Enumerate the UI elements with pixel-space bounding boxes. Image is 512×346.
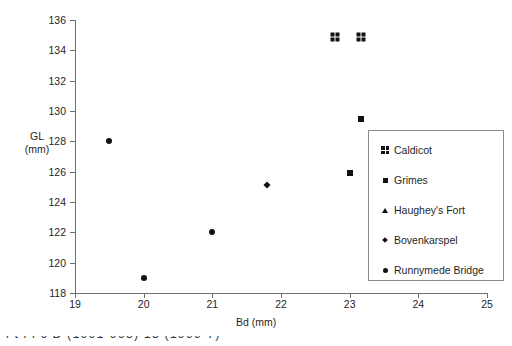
y-tick: [70, 20, 75, 21]
legend-item-runnymede-bridge[interactable]: Runnymede Bridge: [379, 264, 484, 276]
y-tick: [70, 50, 75, 51]
grid4-marker-icon: [379, 146, 391, 154]
x-tick-label: 23: [344, 298, 356, 310]
legend-item-bovenkarspel[interactable]: Bovenkarspel: [379, 234, 458, 246]
data-point: [141, 275, 147, 281]
y-tick-label-text: 130: [48, 106, 66, 117]
y-axis-title-line1: GL: [8, 130, 66, 143]
legend-item-label: Grimes: [394, 174, 428, 186]
x-tick-label: 25: [481, 298, 493, 310]
data-point: [358, 116, 364, 122]
legend-item-haughey-s-fort[interactable]: Haughey's Fort: [379, 204, 465, 216]
data-point: [347, 170, 353, 176]
x-axis-title: Bd (mm): [0, 316, 512, 328]
y-tick: [70, 263, 75, 264]
x-tick-label: 20: [138, 298, 150, 310]
scatter-chart: 118120122124126128130132134136 192021222…: [0, 0, 512, 346]
legend-item-caldicot[interactable]: Caldicot: [379, 144, 432, 156]
legend-item-label: Runnymede Bridge: [394, 264, 484, 276]
triangle-marker-icon: [379, 208, 391, 213]
legend-item-grimes[interactable]: Grimes: [379, 174, 428, 186]
y-axis-line: [75, 20, 76, 294]
chart-legend: CaldicotGrimesHaughey's FortBovenkarspel…: [368, 130, 504, 281]
diamond-marker-icon: [379, 238, 391, 242]
x-tick-label: 19: [69, 298, 81, 310]
legend-item-label: Haughey's Fort: [394, 204, 465, 216]
y-tick-label-text: 120: [48, 258, 66, 269]
y-tick: [70, 141, 75, 142]
caption-text: l t l i ĉ D (1991-995) 15 (1999-7): [6, 336, 221, 341]
y-tick-label-text: 124: [48, 197, 66, 208]
x-tick-label: 21: [206, 298, 218, 310]
x-tick-label: 22: [275, 298, 287, 310]
data-point: [357, 32, 366, 41]
y-tick: [70, 172, 75, 173]
y-tick-label-text: 132: [48, 76, 66, 87]
circle-marker-icon: [379, 268, 391, 273]
page-caption-strip: l t l i ĉ D (1991-995) 15 (1999-7): [0, 336, 512, 346]
y-tick-label-text: 134: [48, 45, 66, 56]
x-tick-label: 24: [412, 298, 424, 310]
y-tick-label-text: 136: [48, 15, 66, 26]
y-tick: [70, 232, 75, 233]
data-point: [209, 229, 215, 235]
data-point: [106, 138, 112, 144]
data-point: [264, 182, 271, 189]
y-tick-label-text: 118: [49, 288, 66, 299]
legend-item-label: Caldicot: [394, 144, 432, 156]
y-axis-title: GL (mm): [8, 130, 66, 156]
y-tick-label-text: 122: [48, 227, 66, 238]
y-tick: [70, 81, 75, 82]
y-tick: [70, 111, 75, 112]
y-tick: [70, 202, 75, 203]
legend-item-label: Bovenkarspel: [394, 234, 458, 246]
y-axis-title-line2: (mm): [8, 143, 66, 156]
data-point: [330, 32, 339, 41]
square-marker-icon: [379, 178, 391, 183]
y-tick-label-text: 126: [48, 167, 66, 178]
